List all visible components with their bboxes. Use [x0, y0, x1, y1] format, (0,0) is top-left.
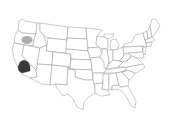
state-florida[interactable]: [112, 85, 136, 108]
state-maryland[interactable]: [128, 52, 144, 58]
state-new-mexico[interactable]: [50, 65, 68, 85]
state-arkansas[interactable]: [93, 73, 104, 84]
state-kansas[interactable]: [70, 59, 92, 70]
us-map-svg: [0, 0, 177, 122]
state-north-dakota[interactable]: [67, 27, 87, 39]
state-colorado[interactable]: [52, 52, 71, 67]
state-mississippi[interactable]: [102, 74, 109, 90]
state-maine[interactable]: [150, 19, 160, 37]
states-layer: [12, 19, 160, 110]
us-map: United States: [0, 0, 177, 122]
state-wyoming[interactable]: [46, 38, 67, 53]
state-connecticut[interactable]: [146, 42, 152, 47]
state-iowa[interactable]: [88, 47, 102, 58]
state-washington[interactable]: [18, 19, 37, 34]
state-south-dakota[interactable]: [66, 38, 88, 51]
oregon-highlight-marker[interactable]: [22, 36, 33, 44]
